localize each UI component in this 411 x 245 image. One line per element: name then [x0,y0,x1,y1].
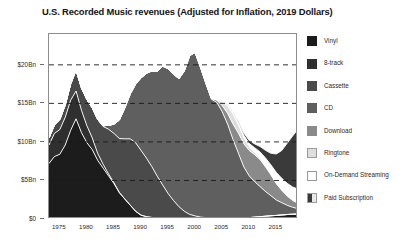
legend-swatch-icon [307,126,317,136]
legend-swatch-icon [307,59,317,69]
legend-item-vinyl[interactable]: Vinyl [307,30,407,52]
legend-swatch-icon [307,193,317,203]
legend-item-label: Cassette [324,83,349,89]
legend-item-label: Download [324,128,352,134]
legend-item-8-track[interactable]: 8-track [307,52,407,74]
legend-swatch-icon [307,81,317,91]
legend-swatch-icon [307,36,317,46]
x-tick-label: 1985 [106,223,120,230]
y-axis: $0$5Bn$10Bn$15Bn$20Bn [0,33,44,218]
y-tick-label: $20Bn [18,60,36,67]
legend-item-paid-subscription[interactable]: Paid Subscription [307,187,407,209]
legend-item-on-demand-streaming[interactable]: On-Demand Streaming [307,164,407,186]
x-tick-label: 1980 [79,223,93,230]
legend-swatch-icon [307,148,317,158]
y-tick-mark [40,179,44,180]
legend-item-label: Ringtone [324,150,349,156]
legend-swatch-icon [307,171,317,181]
legend-item-ringtone[interactable]: Ringtone [307,142,407,164]
legend-item-cd[interactable]: CD [307,97,407,119]
legend-item-label: 8-track [324,60,343,66]
x-tick-label: 1990 [133,223,147,230]
legend-item-cassette[interactable]: Cassette [307,75,407,97]
legend-item-label: Paid Subscription [324,195,373,201]
x-tick-label: 1995 [160,223,174,230]
y-tick-mark [40,218,44,219]
legend-item-label: CD [324,105,333,111]
legend-item-label: On-Demand Streaming [324,172,389,178]
y-tick-mark [40,141,44,142]
y-tick-label: $10Bn [18,137,36,144]
plot-frame [48,33,297,218]
legend-item-label: Vinyl [324,38,338,44]
y-tick-label: $5Bn [21,176,36,183]
x-tick-label: 2010 [241,223,255,230]
x-tick-label: 2015 [268,223,282,230]
x-tick-label: 2005 [214,223,228,230]
stacked-area-chart [49,34,297,218]
y-tick-mark [40,64,44,65]
chart-legend: Vinyl8-trackCassetteCDDownloadRingtoneOn… [307,30,407,209]
plot-area [48,33,297,218]
y-tick-mark [40,102,44,103]
x-tick-label: 2000 [187,223,201,230]
y-tick-label: $0 [29,215,36,222]
x-axis: 197519801985199019952000200520102015 [48,221,297,235]
legend-swatch-icon [307,103,317,113]
legend-item-download[interactable]: Download [307,120,407,142]
y-tick-label: $15Bn [18,99,36,106]
x-tick-label: 1975 [52,223,66,230]
page-title: U.S. Recorded Music revenues (Adjusted f… [42,6,333,17]
